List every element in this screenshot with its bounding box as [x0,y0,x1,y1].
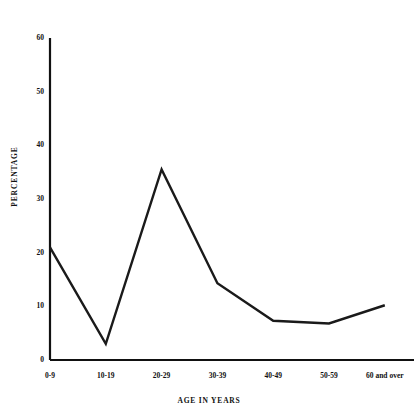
data-series-line [50,169,385,343]
plot-area [0,0,418,414]
x-axis-title: AGE IN YEARS [0,396,418,405]
line-chart: PERCENTAGE 6050403020100 0-910-1920-2930… [0,0,418,414]
x-tick-label: 60 and over [350,371,418,380]
